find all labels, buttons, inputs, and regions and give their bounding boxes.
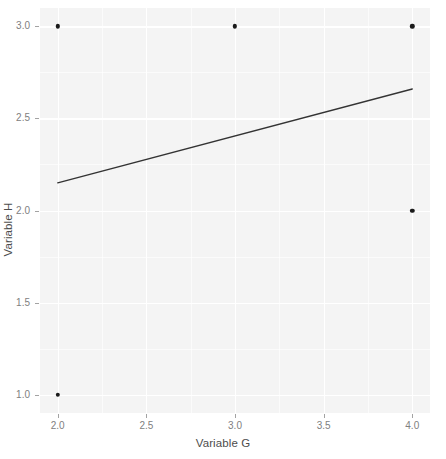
regression-line-layer	[0, 0, 446, 459]
x-axis-tick-mark	[324, 414, 325, 418]
x-axis-tick-mark	[58, 414, 59, 418]
x-axis-title: Variable G	[0, 437, 446, 449]
x-axis-tick-mark	[412, 414, 413, 418]
y-axis-tick-mark	[35, 303, 39, 304]
y-axis-tick-mark	[35, 211, 39, 212]
y-axis-tick-mark	[35, 395, 39, 396]
x-axis-tick-label: 2.5	[126, 420, 166, 431]
y-axis-title: Variable H	[2, 0, 18, 459]
x-axis-tick-mark	[146, 414, 147, 418]
x-axis-tick-label: 3.5	[304, 420, 344, 431]
x-axis-tick-mark	[235, 414, 236, 418]
x-axis-tick-label: 4.0	[392, 420, 432, 431]
scatter-plot: 1.01.52.02.53.02.02.53.03.54.0 Variable …	[0, 0, 446, 459]
regression-line	[58, 89, 413, 183]
x-axis-tick-label: 3.0	[215, 420, 255, 431]
y-axis-tick-mark	[35, 26, 39, 27]
y-axis-tick-mark	[35, 118, 39, 119]
x-axis-tick-label: 2.0	[38, 420, 78, 431]
